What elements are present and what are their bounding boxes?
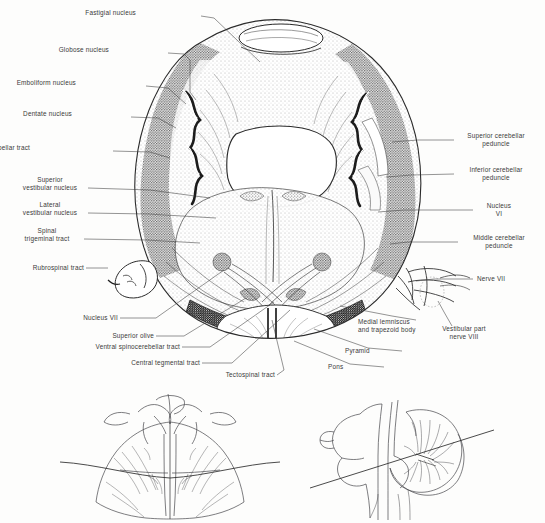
label-emboliform-nucleus: Emboliform nucleus — [0, 79, 76, 87]
label-nucleocerebellar-tract: Nucleocerebellar tract — [0, 144, 30, 152]
label-nerve-vii: Nerve VII — [477, 275, 537, 283]
section-body — [120, 10, 440, 350]
label-pons: Pons — [328, 363, 368, 371]
label-pyramid: Pyramid — [345, 347, 395, 355]
label-dentate-nucleus: Dentate nucleus — [1, 110, 72, 118]
label-globose-nucleus: Globose nucleus — [33, 46, 109, 54]
label-superior-cerebellar-peduncle: Superior cerebellar peduncle — [452, 132, 540, 147]
label-superior-olive: Superior olive — [98, 332, 154, 340]
label-nucleus-vi: Nucleus VI — [473, 202, 525, 217]
label-rubrospinal-tract: Rubrospinal tract — [8, 264, 84, 272]
label-superior-vestibular-nucleus: Superior vestibular nucleus — [14, 176, 86, 191]
label-central-tegmental-tract: Central tegmental tract — [108, 359, 200, 367]
label-fastigial-nucleus: Fastigial nucleus — [60, 9, 136, 17]
figure-canvas: Fastigial nucleus Globose nucleus Emboli… — [0, 0, 545, 523]
flocculus-left — [115, 261, 157, 298]
cut-plane-line-sagittal — [310, 430, 494, 488]
label-inferior-cerebellar-peduncle: Inferior cerebellar peduncle — [452, 166, 540, 181]
label-nucleus-vii: Nucleus VII — [68, 314, 118, 322]
label-lateral-vestibular-nucleus: Lateral vestibular nucleus — [14, 201, 86, 216]
label-ventral-spinocerebellar-tract: Ventral spinocerebellar tract — [66, 343, 180, 351]
label-middle-cerebellar-peduncle: Middle cerebellar peduncle — [456, 234, 542, 249]
inset-dorsal-brainstem-view — [60, 390, 300, 523]
inset-midsagittal-cerebellum-view — [308, 390, 518, 523]
nerve-complex-right — [396, 266, 470, 310]
label-medial-lemniscus-trapezoid-body: Medial lemniscus and trapezoid body — [358, 318, 456, 333]
label-tectospinal-tract: Tectospinal tract — [209, 371, 275, 379]
label-spinal-trigeminal-tract: Spinal trigeminal tract — [12, 227, 82, 242]
